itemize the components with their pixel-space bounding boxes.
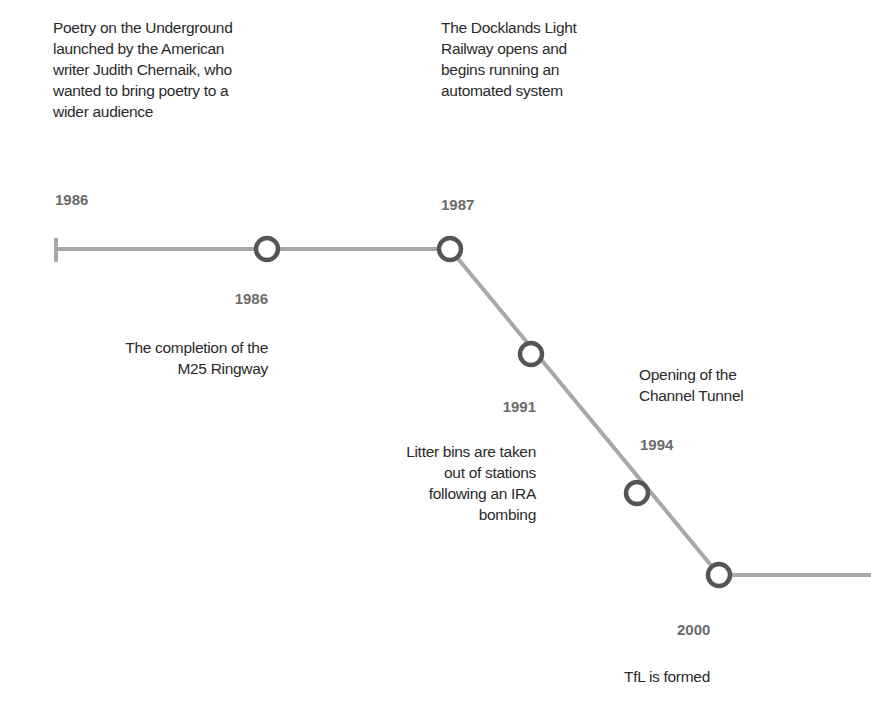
- text-line: TfL is formed: [624, 666, 710, 687]
- event-dlr-description: The Docklands Light Railway opens and be…: [441, 17, 577, 101]
- text-line: writer Judith Chernaik, who: [53, 59, 232, 80]
- timeline-node-1987[interactable]: [439, 238, 461, 260]
- text-line: launched by the American: [53, 38, 232, 59]
- text-line: The completion of the: [60, 337, 268, 358]
- event-poetry-year: 1986: [55, 191, 88, 208]
- text-line: wanted to bring poetry to a: [53, 80, 232, 101]
- text-line: begins running an: [441, 59, 577, 80]
- text-line: bombing: [330, 504, 536, 525]
- text-line: Railway opens and: [441, 38, 577, 59]
- text-line: Opening of the: [639, 364, 743, 385]
- timeline-node-1991[interactable]: [520, 343, 542, 365]
- event-m25-year: 1986: [200, 290, 268, 307]
- timeline-node-1994[interactable]: [626, 482, 648, 504]
- timeline-node-2000[interactable]: [708, 564, 730, 586]
- text-line: Channel Tunnel: [639, 385, 743, 406]
- text-line: following an IRA: [330, 483, 536, 504]
- text-line: Litter bins are taken: [330, 441, 536, 462]
- text-line: automated system: [441, 80, 577, 101]
- text-line: M25 Ringway: [60, 358, 268, 379]
- event-channel-tunnel-description: Opening of the Channel Tunnel: [639, 364, 743, 406]
- event-m25-description: The completion of the M25 Ringway: [60, 337, 268, 379]
- event-dlr-year: 1987: [441, 196, 474, 213]
- text-line: The Docklands Light: [441, 17, 577, 38]
- event-channel-tunnel-year: 1994: [640, 436, 673, 453]
- timeline-node-1986-m25[interactable]: [256, 238, 278, 260]
- text-line: wider audience: [53, 101, 232, 122]
- event-poetry-description: Poetry on the Underground launched by th…: [53, 17, 232, 122]
- event-litter-description: Litter bins are taken out of stations fo…: [330, 441, 536, 525]
- text-line: out of stations: [330, 462, 536, 483]
- text-line: Poetry on the Underground: [53, 17, 232, 38]
- event-tfl-description: TfL is formed: [624, 666, 710, 687]
- event-tfl-year: 2000: [677, 621, 710, 638]
- event-litter-year: 1991: [460, 398, 536, 415]
